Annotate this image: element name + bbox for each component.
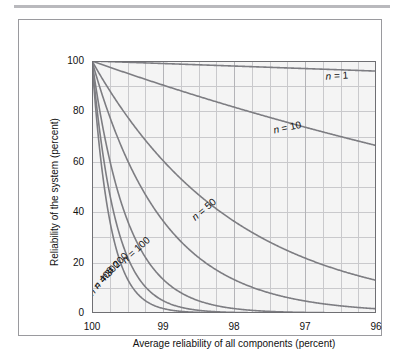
y-tick-label: 0 [58, 308, 84, 318]
y-axis-title: Reliability of the system (percent) [50, 92, 60, 292]
y-tick-label: 60 [58, 157, 84, 167]
y-tick-label: 80 [58, 106, 84, 116]
reliability-line-chart: n = 1n = 10n = 50n = 100n = 200n = 300n … [92, 61, 376, 313]
plot-area: n = 1n = 10n = 50n = 100n = 200n = 300n … [92, 61, 376, 313]
y-tick-label: 20 [58, 258, 84, 268]
figure-frame: n = 1n = 10n = 50n = 100n = 200n = 300n … [18, 19, 382, 336]
top-divider-rule [14, 5, 390, 8]
x-tick-label: 97 [299, 322, 310, 332]
y-tick-label: 40 [58, 207, 84, 217]
x-axis-title: Average reliability of all components (p… [92, 339, 376, 349]
x-tick-label: 100 [84, 322, 101, 332]
figure-page: n = 1n = 10n = 50n = 100n = 200n = 300n … [0, 0, 404, 359]
x-tick-label: 99 [157, 322, 168, 332]
curve-label-1: n = 1 [325, 69, 349, 81]
x-tick-label: 98 [228, 322, 239, 332]
x-tick-label: 96 [370, 322, 381, 332]
y-tick-label: 100 [58, 56, 84, 66]
